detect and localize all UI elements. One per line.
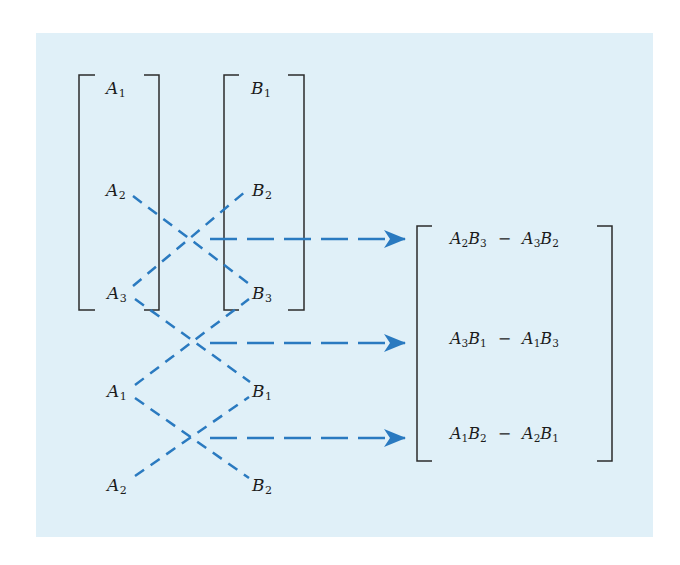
label-a2-repeat: A2 (107, 477, 127, 496)
result-row-3: A1B2−A2B1 (450, 426, 559, 444)
label-b2: B2 (252, 182, 272, 201)
result-row-2: A3B1−A1B3 (450, 331, 559, 349)
cross-product-diagram (0, 0, 680, 565)
label-b1: B1 (251, 80, 271, 99)
cross-lines (133, 191, 250, 478)
label-b1-repeat: B1 (252, 383, 272, 402)
label-b3: B3 (252, 285, 272, 304)
label-a1: A1 (106, 80, 126, 99)
result-row-1: A2B3−A3B2 (450, 231, 559, 249)
label-a3: A3 (107, 285, 127, 304)
label-a2: A2 (106, 182, 126, 201)
label-a1-repeat: A1 (107, 383, 127, 402)
arrows (210, 239, 405, 438)
label-b2-repeat: B2 (252, 477, 272, 496)
